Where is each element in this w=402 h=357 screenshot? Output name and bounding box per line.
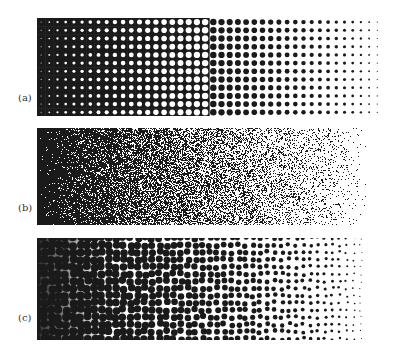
panel-a-label: (a) bbox=[18, 92, 32, 103]
panel-b-label: (b) bbox=[18, 202, 32, 213]
panel-c-label: (c) bbox=[18, 312, 31, 323]
panel-c-cell-halftone bbox=[37, 238, 383, 340]
panel-a-clustered-dot-halftone bbox=[37, 18, 383, 116]
panel-b-dispersed-dot-halftone bbox=[37, 128, 383, 225]
